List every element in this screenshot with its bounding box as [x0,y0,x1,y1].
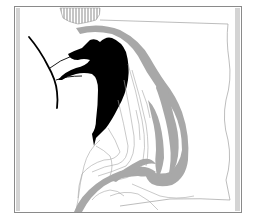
river-map [0,0,254,224]
map-canvas [0,0,254,224]
